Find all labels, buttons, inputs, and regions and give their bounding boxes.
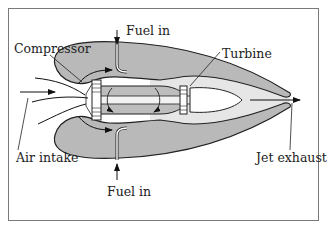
compressor-blades xyxy=(92,80,101,120)
jet-engine-diagram: Compressor Fuel in Turbine Air intake Je… xyxy=(0,0,330,228)
label-turbine: Turbine xyxy=(222,46,272,61)
label-compressor: Compressor xyxy=(14,41,91,56)
label-fuel-in-bottom: Fuel in xyxy=(107,184,151,199)
label-fuel-in-top: Fuel in xyxy=(126,23,170,38)
shaft xyxy=(98,96,193,104)
label-jet-exhaust: Jet exhaust xyxy=(254,150,327,165)
label-air-intake: Air intake xyxy=(15,150,78,165)
